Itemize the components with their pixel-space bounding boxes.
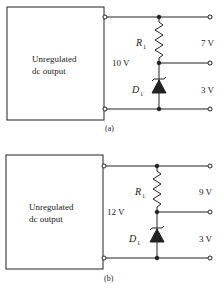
output-terminal-top <box>208 15 212 19</box>
box-label-line1: Unregulated <box>29 202 74 212</box>
caption-a: (a) <box>105 124 114 133</box>
resistor-subscript: 1 <box>142 192 145 199</box>
input-terminal-top <box>103 15 107 19</box>
input-terminal-bottom <box>102 256 106 260</box>
caption-b: (b) <box>104 274 114 283</box>
zener-regulator-diagrams: Unregulated dc output 10 V R 1 D 1 7 V 3… <box>0 0 218 300</box>
junction-dot <box>155 210 159 214</box>
zener-diode-d1-icon <box>150 229 164 242</box>
resistor-subscript: 1 <box>143 43 146 50</box>
junction-dot <box>155 164 159 168</box>
output-terminal-top <box>208 164 212 168</box>
resistor-r1-icon <box>155 17 163 63</box>
upper-output-voltage: 7 V <box>201 38 215 48</box>
resistor-label: R <box>134 186 141 197</box>
input-voltage: 10 V <box>112 58 130 68</box>
box-label-line2: dc output <box>32 66 66 76</box>
input-voltage: 12 V <box>107 207 125 217</box>
lower-output-voltage: 3 V <box>199 234 213 244</box>
resistor-label: R <box>135 37 142 48</box>
input-terminal-bottom <box>103 107 107 111</box>
junction-dot <box>157 107 161 111</box>
upper-output-voltage: 9 V <box>199 187 213 197</box>
junction-dot <box>155 256 159 260</box>
output-terminal-mid <box>208 210 212 214</box>
figure-a-labels: Unregulated dc output 10 V R 1 D 1 7 V 3… <box>32 37 215 133</box>
zener-diode-d1-icon <box>152 80 166 93</box>
output-terminal-bottom <box>208 107 212 111</box>
output-terminal-bottom <box>208 256 212 260</box>
diode-label: D <box>128 233 137 244</box>
box-label-line1: Unregulated <box>32 54 77 64</box>
junction-dot <box>157 15 161 19</box>
input-terminal-top <box>102 164 106 168</box>
output-terminal-mid <box>208 61 212 65</box>
unregulated-supply-box <box>6 155 103 269</box>
junction-dot <box>157 61 161 65</box>
resistor-r1-icon <box>153 166 161 212</box>
diode-subscript: 1 <box>140 90 143 97</box>
box-label-line2: dc output <box>29 214 63 224</box>
lower-output-voltage: 3 V <box>201 85 215 95</box>
figure-b-labels: Unregulated dc output 12 V R 1 D 1 9 V 3… <box>29 186 213 283</box>
diode-label: D <box>131 84 140 95</box>
diode-subscript: 1 <box>137 239 140 246</box>
